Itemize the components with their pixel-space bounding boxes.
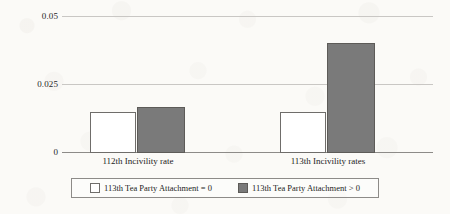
legend-label-attachment-equals-0: 113th Tea Party Attachment = 0	[104, 184, 212, 193]
y-axis-tick-label-0: 0	[53, 148, 58, 157]
legend-label-attachment-greater-0: 113th Tea Party Attachment > 0	[252, 184, 360, 193]
bar-chart: 0.05 0.025 0 112th Incivility rate 113th…	[0, 0, 450, 214]
bar-112th-attachment-equals-0	[90, 112, 136, 153]
x-axis-label-113th: 113th Incivility rates	[258, 157, 398, 166]
legend-entry-attachment-greater-0: 113th Tea Party Attachment > 0	[238, 183, 360, 193]
gridline-0.05	[62, 16, 433, 17]
legend-swatch-open-icon	[90, 183, 100, 193]
legend-swatch-filled-icon	[238, 183, 248, 193]
chart-legend: 113th Tea Party Attachment = 0 113th Tea…	[71, 178, 379, 198]
x-axis-label-112th: 112th Incivility rate	[68, 157, 208, 166]
bar-113th-attachment-equals-0	[280, 112, 326, 153]
y-axis-tick-label-0.025: 0.025	[37, 80, 58, 89]
bar-113th-attachment-greater-0	[327, 43, 375, 153]
legend-entry-attachment-equals-0: 113th Tea Party Attachment = 0	[90, 183, 212, 193]
y-axis-tick-label-0.05: 0.05	[42, 12, 58, 21]
gridline-0.025	[62, 84, 433, 85]
bar-112th-attachment-greater-0	[137, 107, 185, 153]
